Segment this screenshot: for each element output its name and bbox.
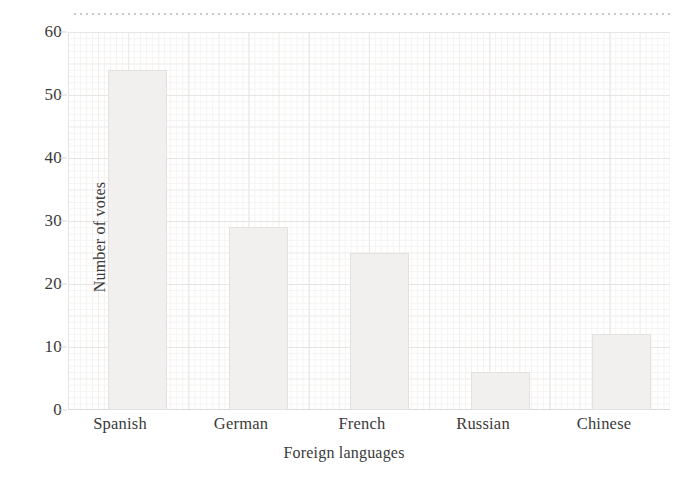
y-tick-label-10: 10 xyxy=(0,337,62,357)
y-tick-label-60: 60 xyxy=(0,22,62,42)
y-tick-mark-50 xyxy=(60,95,67,96)
y-tick-label-30: 30 xyxy=(0,211,62,231)
y-tick-label-20: 20 xyxy=(0,274,62,294)
y-tick-mark-20 xyxy=(60,284,67,285)
y-axis-line xyxy=(68,32,69,410)
x-axis-title: Foreign languages xyxy=(0,444,688,462)
x-tick-label-russian: Russian xyxy=(441,414,525,434)
x-tick-label-french: French xyxy=(320,414,404,434)
y-tick-mark-0 xyxy=(60,410,67,411)
x-tick-label-german: German xyxy=(199,414,283,434)
bar-chinese[interactable] xyxy=(592,334,651,410)
y-tick-label-50: 50 xyxy=(0,85,62,105)
bar-russian[interactable] xyxy=(471,372,530,410)
bar-spanish[interactable] xyxy=(108,70,167,410)
x-tick-label-chinese: Chinese xyxy=(562,414,646,434)
y-tick-mark-10 xyxy=(60,347,67,348)
bar-french[interactable] xyxy=(350,253,409,411)
y-tick-mark-30 xyxy=(60,221,67,222)
chart-canvas: 60 50 40 30 20 10 0 Number of votes Span… xyxy=(0,0,688,478)
y-tick-mark-60 xyxy=(60,32,67,33)
bar-german[interactable] xyxy=(229,227,288,410)
top-dotted-rule xyxy=(72,13,672,15)
y-tick-label-40: 40 xyxy=(0,148,62,168)
gridline-60 xyxy=(68,32,670,33)
y-tick-label-0: 0 xyxy=(0,400,62,420)
x-tick-label-spanish: Spanish xyxy=(78,414,162,434)
y-tick-mark-40 xyxy=(60,158,67,159)
plot-area: Number of votes xyxy=(68,32,670,410)
y-axis-title: Number of votes xyxy=(91,117,109,357)
